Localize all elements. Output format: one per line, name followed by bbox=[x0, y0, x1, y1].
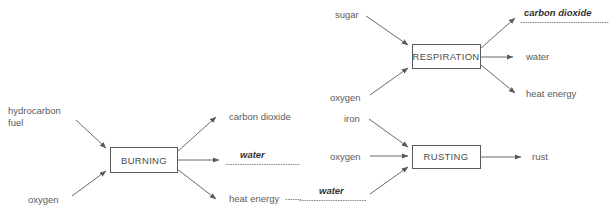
output-label-respiration-heat-energy: heat energy bbox=[526, 88, 576, 99]
input-arrow-respiration-oxygen bbox=[370, 68, 408, 95]
process-box-label-rusting: RUSTING bbox=[424, 151, 469, 162]
process-box-label-burning: BURNING bbox=[121, 155, 167, 166]
process-group-burning: hydrocarbon fuel oxygen BURNING carbon d… bbox=[8, 105, 301, 205]
output-label-burning-water: water bbox=[240, 149, 266, 160]
output-label-respiration-carbon-dioxide: carbon dioxide bbox=[524, 7, 592, 18]
output-label-burning-carbon-dioxide: carbon dioxide bbox=[229, 111, 291, 122]
input-arrow-rusting-water bbox=[370, 167, 408, 194]
output-arrow-burning-carbon-dioxide bbox=[177, 117, 216, 152]
input-arrow-respiration-sugar bbox=[366, 16, 408, 45]
input-arrow-rusting-iron bbox=[369, 119, 408, 147]
process-diagram-canvas: hydrocarbon fuel oxygen BURNING carbon d… bbox=[0, 0, 612, 215]
process-group-respiration: sugar oxygen RESPIRATION carbon dioxide … bbox=[330, 7, 608, 103]
input-label-hydrocarbon-fuel-line1: hydrocarbon bbox=[8, 105, 61, 116]
input-label-hydrocarbon-fuel-line2: fuel bbox=[8, 117, 23, 128]
input-label-rusting-iron: iron bbox=[344, 113, 360, 124]
input-label-burning-oxygen: oxygen bbox=[28, 194, 59, 205]
input-label-respiration-sugar: sugar bbox=[335, 9, 359, 20]
input-arrow-hydrocarbon-fuel bbox=[76, 120, 106, 148]
output-arrow-respiration-carbon-dioxide bbox=[480, 18, 515, 49]
process-group-rusting: iron oxygen water RUSTING rust bbox=[300, 113, 548, 201]
input-label-respiration-oxygen: oxygen bbox=[330, 92, 361, 103]
input-arrow-burning-oxygen bbox=[72, 171, 106, 196]
output-label-rusting-rust: rust bbox=[532, 151, 548, 162]
output-label-burning-heat-energy: heat energy bbox=[229, 193, 279, 204]
output-arrow-respiration-heat-energy bbox=[480, 64, 515, 93]
input-label-rusting-water: water bbox=[319, 185, 345, 196]
input-label-rusting-oxygen: oxygen bbox=[330, 151, 361, 162]
output-label-respiration-water: water bbox=[525, 51, 549, 62]
output-arrow-burning-heat-energy bbox=[177, 169, 216, 199]
process-box-label-respiration: RESPIRATION bbox=[413, 51, 480, 62]
